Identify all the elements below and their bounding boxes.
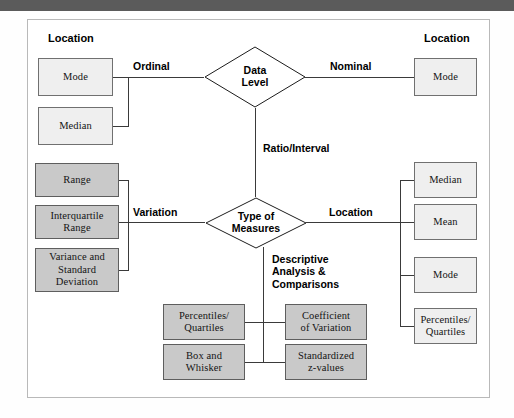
node-desc-percentiles-quartiles-label: Percentiles/ Quartiles [179,310,229,335]
scan-top-band [0,0,514,11]
node-desc-coefficient-of-variation-label: Coefficient of Variation [301,310,352,335]
figure-page: Location Location Data Level [0,0,514,418]
column-heading-left: Location [48,32,94,44]
node-left-median: Median [38,107,113,145]
node-desc-standardized-z-values-label: Standardized z-values [298,350,354,375]
edge-label-ratio-interval: Ratio/Interval [263,142,330,154]
node-left-mode: Mode [38,58,113,96]
connector-right-mean [400,222,415,223]
node-nominal-mode: Mode [414,58,477,96]
connector-left-location-trunk [128,77,129,127]
node-desc-standardized-z-values: Standardized z-values [285,344,367,380]
node-interquartile-range: Interquartile Range [35,205,119,239]
node-interquartile-range-label: Interquartile Range [50,210,103,235]
edge-label-descriptive: Descriptive Analysis & Comparisons [272,253,339,290]
node-desc-coefficient-of-variation: Coefficient of Variation [285,304,367,340]
node-variance-standard-deviation: Variance and Standard Deviation [35,248,119,292]
node-desc-percentiles-quartiles: Percentiles/ Quartiles [163,304,245,340]
connector-ordinal-to-diamond [128,77,204,78]
connector-nominal-to-mode [305,77,415,78]
connector-right-location-trunk [400,180,401,326]
connector-right-mode [400,275,415,276]
column-heading-right: Location [424,32,470,44]
connector-left-median [112,126,129,127]
node-right-mean: Mean [414,204,477,240]
connector-left-mode [112,77,129,78]
connector-desc-row2 [245,362,285,363]
edge-label-ordinal: Ordinal [133,60,170,72]
node-range: Range [35,163,119,197]
connector-right-percentiles [400,326,415,327]
node-right-median: Median [414,162,477,198]
node-right-mode: Mode [414,257,477,293]
node-right-percentiles-quartiles: Percentiles/ Quartiles [414,308,477,344]
connector-variation-trunk [128,180,129,271]
connector-right-median [400,180,415,181]
edge-label-location: Location [329,206,373,218]
node-variance-standard-deviation-label: Variance and Standard Deviation [49,251,105,288]
node-desc-box-and-whisker: Box and Whisker [163,344,245,380]
edge-label-variation: Variation [133,206,177,218]
edge-label-nominal: Nominal [330,60,371,72]
node-desc-box-and-whisker-label: Box and Whisker [186,350,222,375]
connector-variation-to-diamond [128,222,205,223]
decision-type-of-measures: Type of Measures [205,197,307,249]
connector-datalevel-to-typeofmeasures [255,108,256,197]
decision-data-level: Data Level [204,46,306,108]
connector-desc-row1 [245,322,285,323]
node-right-percentiles-quartiles-label: Percentiles/ Quartiles [420,314,470,339]
connector-location-to-right-column [306,222,401,223]
connector-descriptive-trunk [263,247,264,362]
